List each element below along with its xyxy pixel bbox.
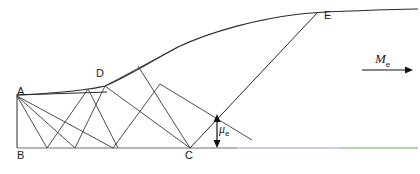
characteristic-line-CE — [190, 12, 318, 148]
mach-subscript: e — [386, 60, 390, 69]
diagram-canvas: A B C D E Me μe — [0, 0, 420, 174]
characteristic-line — [105, 86, 190, 148]
mu-subscript: e — [225, 129, 229, 138]
characteristic-line — [105, 47, 178, 86]
mach-flow-arrowhead — [405, 67, 413, 74]
mach-angle-arrowhead-up — [214, 114, 221, 122]
label-point-c: C — [185, 150, 193, 161]
mach-symbol: M — [375, 51, 386, 66]
characteristic-line — [47, 89, 88, 148]
label-mach-angle: μe — [219, 123, 229, 138]
label-point-d: D — [96, 68, 104, 79]
nozzle-wall-curve — [17, 9, 418, 95]
label-mach-number: Me — [375, 52, 390, 69]
label-point-a: A — [17, 86, 24, 97]
characteristic-line — [113, 84, 160, 148]
characteristic-line — [75, 86, 105, 148]
characteristic-line — [17, 96, 75, 148]
label-point-e: E — [324, 10, 331, 21]
characteristic-line — [138, 66, 190, 148]
characteristic-line — [88, 89, 118, 148]
label-point-b: B — [17, 150, 24, 161]
mach-angle-arrowhead-down — [214, 140, 221, 148]
nozzle-characteristics-svg — [0, 0, 420, 174]
